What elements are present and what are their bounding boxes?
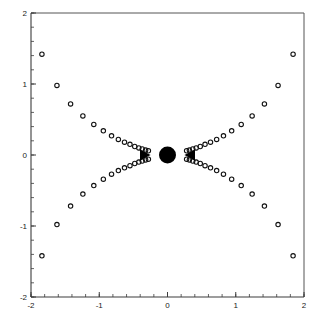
y-tick-label: -2 bbox=[20, 293, 28, 302]
x-axis-tick-labels: -2-1012 bbox=[27, 301, 306, 310]
data-point bbox=[214, 168, 218, 172]
series-trajectory-lower-right bbox=[184, 157, 295, 258]
data-point bbox=[239, 122, 243, 126]
y-tick-label: -1 bbox=[20, 222, 28, 231]
data-point bbox=[221, 172, 225, 176]
data-point bbox=[276, 222, 280, 226]
data-point bbox=[262, 102, 266, 106]
data-point bbox=[239, 183, 243, 187]
data-point bbox=[203, 142, 207, 146]
data-point bbox=[221, 134, 225, 138]
data-point bbox=[214, 137, 218, 141]
data-point bbox=[128, 163, 132, 167]
x-tick-label: 0 bbox=[165, 301, 170, 310]
x-tick-label: -1 bbox=[96, 301, 104, 310]
data-point bbox=[68, 102, 72, 106]
y-tick-label: 1 bbox=[23, 80, 28, 89]
data-point bbox=[92, 122, 96, 126]
x-tick-label: -2 bbox=[27, 301, 35, 310]
data-point bbox=[116, 137, 120, 141]
data-point bbox=[122, 140, 126, 144]
data-point bbox=[229, 177, 233, 181]
data-point bbox=[203, 163, 207, 167]
y-tick-label: 2 bbox=[23, 9, 28, 18]
x-tick-label: 2 bbox=[302, 301, 307, 310]
data-point bbox=[128, 142, 132, 146]
data-point bbox=[68, 204, 72, 208]
fixed-point bbox=[159, 147, 176, 164]
data-point bbox=[184, 149, 188, 153]
data-point bbox=[81, 114, 85, 118]
plot-canvas: -2-1012 -2-1012 bbox=[0, 0, 319, 323]
y-axis-tick-labels: -2-1012 bbox=[20, 9, 28, 302]
data-point bbox=[250, 192, 254, 196]
data-point bbox=[184, 157, 188, 161]
data-point bbox=[109, 134, 113, 138]
data-point bbox=[262, 204, 266, 208]
data-point bbox=[92, 183, 96, 187]
data-point bbox=[208, 166, 212, 170]
flow-arrow-left bbox=[140, 149, 151, 160]
data-point bbox=[276, 83, 280, 87]
data-point bbox=[146, 157, 150, 161]
y-tick-label: 0 bbox=[23, 151, 28, 160]
data-point bbox=[55, 222, 59, 226]
data-point bbox=[81, 192, 85, 196]
series-trajectory-lower-left bbox=[40, 157, 151, 258]
series-trajectory-upper-right bbox=[184, 52, 295, 153]
data-point bbox=[101, 129, 105, 133]
x-tick-label: 1 bbox=[234, 301, 239, 310]
data-point bbox=[291, 254, 295, 258]
data-point bbox=[208, 140, 212, 144]
data-point bbox=[109, 172, 113, 176]
data-point bbox=[291, 52, 295, 56]
series-trajectory-upper-left bbox=[40, 52, 151, 153]
flow-arrow-right bbox=[184, 149, 195, 160]
data-point bbox=[146, 149, 150, 153]
data-point bbox=[229, 129, 233, 133]
scatter-plot-figure: -2-1012 -2-1012 bbox=[0, 0, 319, 323]
data-point bbox=[122, 166, 126, 170]
data-point bbox=[250, 114, 254, 118]
data-point bbox=[40, 52, 44, 56]
data-point bbox=[40, 254, 44, 258]
data-point bbox=[55, 83, 59, 87]
data-point bbox=[101, 177, 105, 181]
data-point bbox=[116, 168, 120, 172]
